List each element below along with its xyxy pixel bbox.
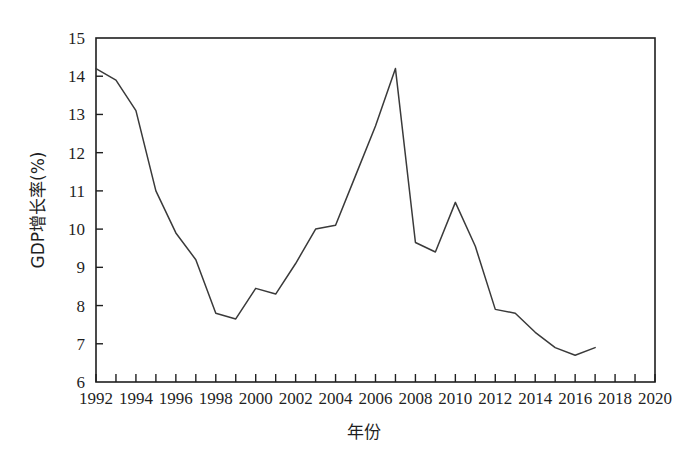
y-tick-label: 11: [69, 182, 85, 201]
x-tick-label: 2018: [598, 389, 632, 408]
gdp-growth-line-chart: 6789101112131415 19921994199619982000200…: [0, 0, 696, 454]
x-tick-label: 1996: [159, 389, 193, 408]
x-tick-label: 2008: [398, 389, 432, 408]
y-tick-label: 9: [77, 258, 86, 277]
x-tick-label: 2012: [478, 389, 512, 408]
x-tick-label: 1998: [199, 389, 233, 408]
x-tick-label: 2004: [319, 389, 354, 408]
x-axis-tick-labels: 1992199419961998200020022004200620082010…: [79, 389, 672, 408]
figure-background: [0, 0, 696, 454]
x-tick-label: 2000: [239, 389, 273, 408]
y-tick-label: 14: [68, 67, 86, 86]
x-tick-label: 2006: [359, 389, 393, 408]
x-axis-title: 年份: [347, 422, 381, 442]
y-axis-title: GDP增长率(%): [28, 152, 48, 269]
y-tick-label: 12: [68, 144, 85, 163]
chart-canvas: 6789101112131415 19921994199619982000200…: [0, 0, 696, 454]
x-tick-label: 1992: [79, 389, 113, 408]
y-tick-label: 7: [77, 335, 86, 354]
x-tick-label: 1994: [119, 389, 154, 408]
x-tick-label: 2016: [558, 389, 592, 408]
y-tick-label: 8: [77, 297, 86, 316]
x-tick-label: 2010: [438, 389, 472, 408]
x-tick-label: 2020: [638, 389, 672, 408]
y-tick-label: 15: [68, 29, 85, 48]
y-tick-label: 13: [68, 105, 85, 124]
x-tick-label: 2014: [518, 389, 553, 408]
x-tick-label: 2002: [279, 389, 313, 408]
y-tick-label: 10: [68, 220, 85, 239]
